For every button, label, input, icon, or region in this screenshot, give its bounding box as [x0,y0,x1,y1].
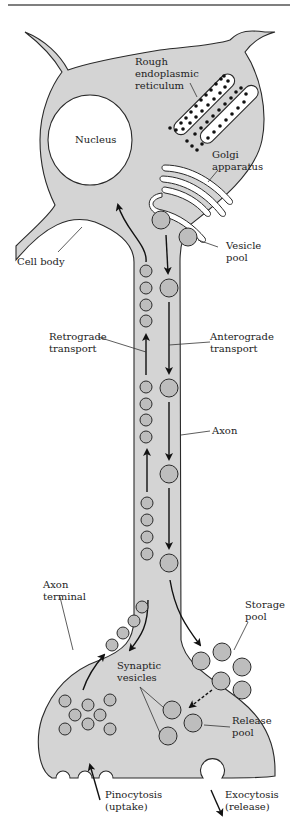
label-anterograde: Anterogradetransport [209,331,274,354]
label-cell-body: Cell body [17,256,65,267]
label-vesicle-pool: Vesiclepool [225,240,261,263]
label-storage-pool: Storagepool [245,599,285,622]
vesicle [179,228,197,246]
label-axon-terminal: Axonterminal [42,579,86,602]
label-retrograde: Retrogradetransport [49,331,107,354]
neuron-diagram: Roughendoplasmicreticulum Nucleus Golgia… [0,0,295,819]
label-exocytosis: Exocytosis(release) [225,789,279,812]
label-nucleus: Nucleus [75,134,116,145]
vesicle [152,211,170,229]
label-axon: Axon [211,425,238,436]
label-pinocytosis: Pinocytosis(uptake) [105,789,162,812]
label-synaptic-vesicles: Synapticvesicles [116,660,162,683]
